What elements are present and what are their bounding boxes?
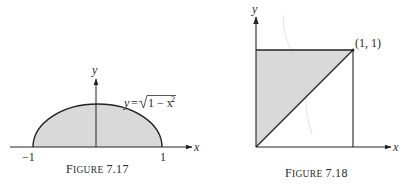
tick-label-neg-one: −1 [22, 150, 35, 164]
equation-lhs: y [123, 96, 130, 110]
x-axis-label: x [193, 140, 200, 154]
figure-caption: FIGURE7.17 [66, 162, 129, 176]
corner-point-label: (1, 1) [355, 36, 381, 50]
y-axis-label: y [251, 2, 258, 16]
curve-equation-label: y = 1 − x 2 [123, 95, 176, 110]
x-axis-label: x [392, 140, 399, 154]
figure-caption: FIGURE7.18 [285, 166, 348, 180]
figure-7-17: y x −1 1 y = 1 − x 2 FIGURE7.17 [10, 63, 200, 176]
tick-label-one: 1 [160, 150, 166, 164]
equation-exponent: 2 [171, 95, 175, 104]
semicircle-shaded-region [33, 104, 162, 147]
figure-7-18: y x (1, 1) FIGURE7.18 [251, 2, 399, 180]
equation-equals: = [131, 96, 138, 110]
figures-canvas: y x −1 1 y = 1 − x 2 FIGURE7.17 y x (1, … [0, 0, 413, 184]
y-axis-label: y [91, 63, 98, 77]
equation-sqrt-body: 1 − x [148, 96, 173, 110]
